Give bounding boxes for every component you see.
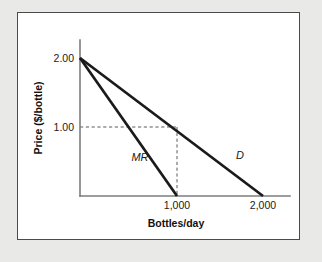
- y-axis-title: Price ($/bottle): [32, 82, 44, 155]
- demand-marginal-revenue-chart: 2.00 1.00 1,000 2,000 MR D Bottles/day P…: [0, 0, 322, 262]
- x-tick-label-1000: 1,000: [164, 199, 190, 211]
- y-tick-label-2: 2.00: [54, 52, 75, 64]
- x-tick-label-2000: 2,000: [250, 199, 276, 211]
- demand-curve: [80, 58, 263, 196]
- figure-container: 2.00 1.00 1,000 2,000 MR D Bottles/day P…: [0, 0, 322, 262]
- marginal-revenue-curve-label: MR: [131, 151, 148, 163]
- x-axis-title: Bottles/day: [148, 217, 205, 229]
- y-tick-label-1: 1.00: [54, 121, 75, 133]
- demand-curve-label: D: [236, 149, 244, 161]
